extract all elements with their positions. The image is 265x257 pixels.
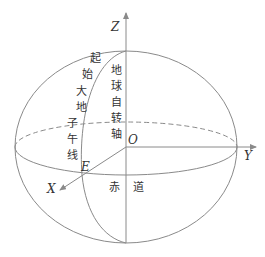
diagram-canvas (0, 0, 265, 257)
origin-label: O (128, 134, 138, 146)
earth-coordinate-diagram: Z Y X O E 起 始 大 地 子 午 线 地 球 自 转 轴 赤 道 (0, 0, 265, 257)
prime-meridian-label: 起 (90, 53, 101, 69)
y-axis-label: Y (244, 150, 252, 162)
equator-label-char-1: 赤 (109, 182, 120, 193)
meridian-char: 始 (82, 69, 93, 85)
rotation-axis-char: 转 (111, 113, 122, 129)
rotation-axis-label: 地 球 自 转 轴 (111, 65, 122, 145)
meridian-char: 大 (76, 86, 87, 102)
prime-meridian-label-cont3: 子 午 线 (67, 118, 78, 166)
prime-meridian-label-cont: 始 (82, 69, 93, 85)
z-axis-label: Z (111, 21, 119, 33)
meridian-char: 地 (76, 102, 87, 118)
meridian-char: 午 (67, 134, 78, 150)
rotation-axis-char: 地 (111, 65, 122, 81)
prime-meridian-label-cont2: 大 地 (76, 86, 87, 118)
meridian-char: 子 (67, 118, 78, 134)
meridian-char: 线 (67, 150, 78, 166)
equator-label-char-2: 道 (133, 182, 144, 193)
rotation-axis-char: 球 (111, 81, 122, 97)
rotation-axis-char: 自 (111, 97, 122, 113)
rotation-axis-char: 轴 (111, 129, 122, 145)
meridian-char: 起 (90, 53, 101, 69)
x-axis-label: X (47, 183, 56, 195)
point-e-label: E (81, 161, 90, 173)
